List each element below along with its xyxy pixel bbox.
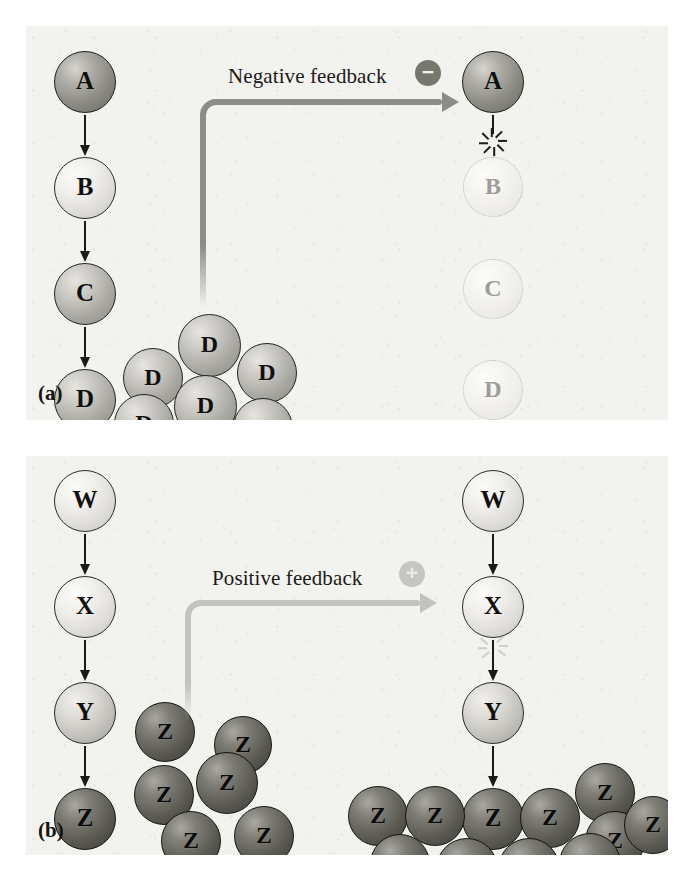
feedback-regulation-figure: A B C D D D D D D D Negative feedback bbox=[0, 0, 694, 881]
node-w-right: W bbox=[462, 470, 524, 532]
panel-b-tag: (b) bbox=[38, 818, 64, 843]
feedback-arrow-vertical-segment bbox=[200, 123, 206, 308]
arrow-y-to-z-left bbox=[78, 746, 92, 788]
feedback-arrow-head bbox=[442, 92, 459, 112]
panel-a-negative-feedback: A B C D D D D D D D Negative feedback bbox=[26, 26, 668, 420]
minus-sign-badge: − bbox=[415, 60, 441, 86]
arrow-b-to-c-left bbox=[78, 221, 92, 263]
cluster-molecule-d: D bbox=[233, 398, 293, 420]
arrow-x-to-y-left bbox=[78, 640, 92, 682]
arrow-c-to-d-left bbox=[78, 327, 92, 369]
arrow-w-to-x-left bbox=[78, 534, 92, 576]
node-c-right-inhibited: C bbox=[463, 259, 523, 319]
node-b-right-inhibited: B bbox=[463, 157, 523, 217]
negative-feedback-label: Negative feedback bbox=[228, 64, 387, 89]
node-a-left: A bbox=[54, 51, 116, 113]
node-c-left: C bbox=[54, 263, 116, 325]
paper-texture bbox=[26, 456, 668, 855]
node-y-left: Y bbox=[54, 682, 116, 744]
node-x-left: X bbox=[54, 576, 116, 638]
node-w-left: W bbox=[54, 470, 116, 532]
arrow-w-to-x-right bbox=[486, 534, 500, 576]
node-y-right: Y bbox=[462, 682, 524, 744]
feedback-arrow-head bbox=[420, 593, 437, 613]
node-b-left: B bbox=[54, 157, 116, 219]
feedback-arrow-horizontal-segment bbox=[207, 600, 420, 606]
node-a-right: A bbox=[462, 51, 524, 113]
feedback-arrow-horizontal-segment bbox=[222, 99, 442, 105]
cluster-molecule-d: D bbox=[237, 343, 297, 403]
node-x-right: X bbox=[462, 576, 524, 638]
cluster-molecule-z: Z bbox=[196, 752, 258, 814]
node-d-right-inhibited: D bbox=[463, 360, 523, 420]
plus-sign-badge: + bbox=[399, 561, 425, 587]
panel-a-tag: (a) bbox=[38, 381, 63, 406]
cluster-molecule-d: D bbox=[178, 314, 241, 377]
positive-feedback-label: Positive feedback bbox=[212, 566, 362, 591]
arrow-a-to-b-left bbox=[78, 115, 92, 157]
stimulate-starburst-icon bbox=[476, 631, 510, 661]
block-starburst-icon bbox=[476, 126, 510, 156]
cluster-molecule-d: D bbox=[174, 375, 237, 420]
feedback-arrow-vertical-segment bbox=[185, 624, 191, 720]
arrow-y-to-z-right bbox=[486, 746, 500, 788]
cluster-molecule-z: Z bbox=[234, 806, 294, 855]
panel-b-positive-feedback: W X Y Z Z Z Z Z Z Z Positive feedback bbox=[26, 456, 668, 855]
node-d-left: D bbox=[54, 369, 116, 420]
